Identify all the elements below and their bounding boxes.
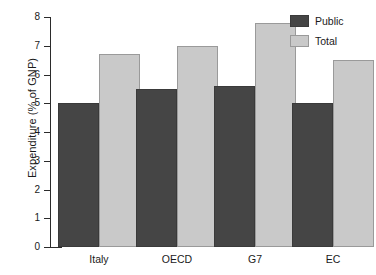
chart-legend: PublicTotal xyxy=(290,12,344,52)
legend-swatch-total xyxy=(290,35,309,47)
y-axis-tick-label: 3 xyxy=(34,154,40,167)
y-axis-tick-label: 2 xyxy=(34,183,40,196)
x-axis-label-italy: Italy xyxy=(58,253,140,265)
bar-oecd-total xyxy=(177,46,218,247)
y-axis-tick: 7 xyxy=(44,46,50,47)
bar-italy-total xyxy=(99,54,140,247)
bar-g7-public xyxy=(214,86,255,247)
y-axis-tick-label: 7 xyxy=(34,39,40,52)
y-axis-tick-label: 4 xyxy=(34,125,40,138)
y-axis-tick-label: 0 xyxy=(34,240,40,253)
x-axis-label-oecd: OECD xyxy=(136,253,218,265)
y-axis-tick: 4 xyxy=(44,132,50,133)
bar-ec-total xyxy=(333,60,374,247)
y-axis-tick: 3 xyxy=(44,161,50,162)
x-axis-line xyxy=(50,247,62,248)
legend-swatch-public xyxy=(290,15,309,27)
x-axis-label-g7: G7 xyxy=(214,253,296,265)
y-axis-tick: 8 xyxy=(44,17,50,18)
bar-chart: Expenditure (% of GNP) 012345678 ItalyOE… xyxy=(0,0,376,275)
bar-ec-public xyxy=(292,103,333,247)
bar-oecd-public xyxy=(136,89,177,247)
y-axis-line xyxy=(50,17,51,248)
y-axis-tick-label: 1 xyxy=(34,211,40,224)
y-axis-tick-label: 8 xyxy=(34,10,40,23)
legend-item-public: Public xyxy=(290,12,344,29)
legend-label-public: Public xyxy=(315,15,344,27)
y-axis-tick: 5 xyxy=(44,103,50,104)
y-axis-tick-label: 6 xyxy=(34,68,40,81)
bar-italy-public xyxy=(58,103,99,247)
y-axis-tick: 1 xyxy=(44,218,50,219)
bar-g7-total xyxy=(255,23,296,247)
y-axis-tick-label: 5 xyxy=(34,96,40,109)
y-axis-tick: 6 xyxy=(44,75,50,76)
legend-label-total: Total xyxy=(315,35,337,47)
y-axis-tick: 0 xyxy=(44,247,50,248)
x-axis-label-ec: EC xyxy=(292,253,374,265)
legend-item-total: Total xyxy=(290,32,344,49)
y-axis-tick: 2 xyxy=(44,190,50,191)
